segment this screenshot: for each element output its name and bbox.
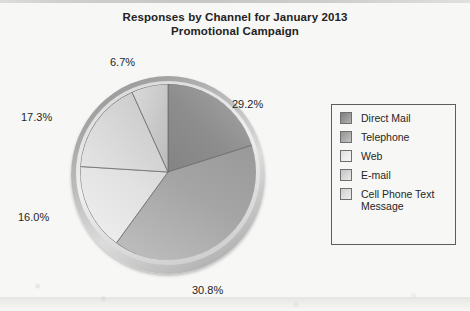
- legend-item-email: E-mail: [340, 169, 451, 181]
- scan-artifact-top: [0, 0, 470, 3]
- legend-swatch-cell-phone-text-message: [340, 188, 352, 200]
- chart-title: Responses by Channel for January 2013 Pr…: [0, 10, 470, 38]
- pie-slices-svg: [80, 84, 256, 260]
- legend-swatch-web: [340, 150, 352, 162]
- legend-label-telephone: Telephone: [361, 131, 409, 143]
- legend-swatch-telephone: [340, 131, 352, 143]
- pie-label-telephone: 30.8%: [192, 284, 223, 296]
- legend-label-email: E-mail: [361, 169, 391, 181]
- legend-item-direct-mail: Direct Mail: [340, 112, 451, 124]
- legend-label-cell-phone-text-message: Cell Phone Text Message: [361, 188, 451, 212]
- legend-label-direct-mail: Direct Mail: [361, 112, 411, 124]
- chart-title-line-1: Responses by Channel for January 2013: [123, 11, 348, 23]
- chart-legend: Direct Mail Telephone Web E-mail Cell Ph…: [331, 104, 456, 245]
- legend-item-web: Web: [340, 150, 451, 162]
- scan-artifact-bottom: [0, 297, 470, 311]
- legend-label-web: Web: [361, 150, 382, 162]
- pie-label-email: 17.3%: [21, 111, 52, 123]
- legend-item-telephone: Telephone: [340, 131, 451, 143]
- legend-swatch-direct-mail: [340, 112, 352, 124]
- legend-item-cell-phone-text-message: Cell Phone Text Message: [340, 188, 451, 212]
- chart-title-line-2: Promotional Campaign: [0, 24, 470, 38]
- pie-face: [80, 84, 256, 260]
- pie-label-web: 16.0%: [18, 211, 49, 223]
- legend-list: Direct Mail Telephone Web E-mail Cell Ph…: [340, 112, 451, 219]
- pie-label-cell-phone-text-message: 6.7%: [110, 56, 135, 68]
- pie-label-direct-mail: 29.2%: [232, 98, 263, 110]
- legend-swatch-email: [340, 169, 352, 181]
